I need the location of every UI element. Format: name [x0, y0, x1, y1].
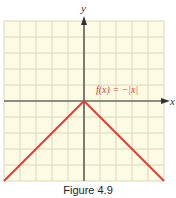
y-axis-label: y [80, 2, 86, 14]
graph: y x f(x) = −|x| [0, 0, 176, 198]
x-axis-arrow-icon [161, 98, 170, 104]
figure-caption: Figure 4.9 [0, 184, 176, 196]
x-axis-label: x [169, 95, 175, 107]
function-label: f(x) = −|x| [96, 84, 138, 96]
